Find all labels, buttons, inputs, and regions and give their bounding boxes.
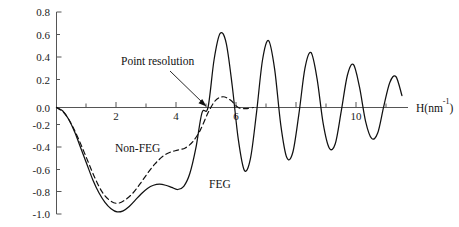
x-axis-title: H(nm-1) — [416, 97, 454, 116]
y-tick-label--0.8: -0.8 — [33, 186, 51, 198]
y-tick-label-0.0: 0.0 — [36, 102, 50, 114]
y-tick-labels: 0.8 0.6 0.4 0.2 0.0 -0.2 -0.4 -0.6 -0.8 … — [33, 6, 51, 220]
y-tick-label-0.8: 0.8 — [36, 6, 50, 18]
x-tick-marks — [86, 102, 386, 108]
point-resolution-arrow — [170, 71, 207, 107]
chart-canvas: 0.8 0.6 0.4 0.2 0.0 -0.2 -0.4 -0.6 -0.8 … — [0, 0, 459, 227]
x-tick-labels: 2 4 6 10 — [113, 110, 362, 122]
y-tick-label--1.0: -1.0 — [33, 208, 51, 220]
x-tick-label-10: 10 — [351, 110, 363, 122]
x-axis-title-base: H(nm — [416, 102, 443, 115]
x-tick-label-2: 2 — [113, 110, 119, 122]
y-tick-label--0.2: -0.2 — [33, 119, 50, 131]
series-label-non-feg: Non-FEG — [115, 142, 160, 154]
y-tick-label--0.4: -0.4 — [33, 141, 51, 153]
annotation-point-resolution: Point resolution — [121, 55, 194, 67]
x-axis-title-superscript: -1 — [443, 97, 450, 106]
y-tick-marks — [57, 12, 62, 214]
y-tick-label--0.6: -0.6 — [33, 164, 51, 176]
x-tick-label-4: 4 — [173, 110, 179, 122]
ctf-chart-figure: 0.8 0.6 0.4 0.2 0.0 -0.2 -0.4 -0.6 -0.8 … — [0, 0, 459, 227]
x-axis-title-close: ) — [450, 102, 454, 115]
series-label-feg: FEG — [209, 178, 231, 190]
y-tick-label-0.6: 0.6 — [36, 29, 50, 41]
y-tick-label-0.4: 0.4 — [36, 51, 50, 63]
y-tick-label-0.2: 0.2 — [36, 74, 50, 86]
